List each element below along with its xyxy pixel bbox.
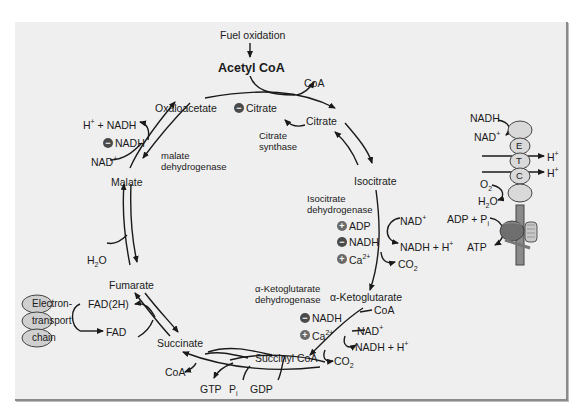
inhibit-icon: − — [300, 313, 310, 323]
etc-adp-pi: ADP + Pi — [447, 214, 489, 227]
malate-dehydrogenase-label: malate dehydrogenase — [161, 151, 227, 173]
malate-inhibitor-nadh: − NADH — [103, 138, 145, 149]
isocitrate-activator-ca: + Ca2+ — [337, 253, 370, 265]
isocitrate-label: Isocitrate — [354, 176, 397, 187]
activate-icon: + — [300, 330, 310, 340]
etc-letter-c: C — [516, 171, 523, 181]
gtp-label: GTP — [200, 384, 222, 395]
fad-label: FAD — [106, 327, 126, 338]
akg-coa: CoA — [374, 305, 394, 316]
inhibit-icon: − — [234, 103, 244, 113]
malate-label: Malate — [111, 177, 143, 188]
succinyl-coa-out: CoA — [165, 367, 185, 378]
fumarate-h2o: H2O — [87, 255, 107, 268]
etc-box-line1: Electron- — [32, 299, 72, 309]
etc-letter-t: T — [516, 156, 522, 166]
gdp-label: GDP — [250, 384, 273, 395]
activate-icon: + — [337, 221, 347, 231]
etc-nad: NAD+ — [474, 130, 500, 142]
fuel-oxidation-label: Fuel oxidation — [220, 30, 285, 41]
citrate-inhibitor: − Citrate — [234, 103, 277, 114]
akg-dehydrogenase-label: α-Ketoglutarate dehydrogenase — [255, 284, 321, 306]
akg-nad-in: NAD+ — [357, 324, 383, 336]
inhibit-icon: − — [337, 237, 347, 247]
etc-o2: O2 — [480, 179, 492, 192]
isocitrate-nadh-out: NADH + H+ — [400, 240, 453, 252]
etc-h-plus-2: H+ — [547, 166, 559, 178]
fumarate-label: Fumarate — [109, 280, 154, 291]
alpha-ketoglutarate-label: α-Ketoglutarate — [330, 292, 402, 303]
etc-letter-e: E — [516, 141, 522, 151]
etc-box-line3: chain — [32, 333, 56, 343]
akg-nadh-out: NADH + H+ — [355, 340, 408, 352]
succinate-label: Succinate — [157, 338, 203, 349]
isocitrate-dehydrogenase-label: Isocitrate dehydrogenase — [307, 194, 373, 216]
fad2h-label: FAD(2H) — [88, 299, 129, 310]
acetyl-coa-label: Acetyl CoA — [218, 62, 285, 75]
oxaloacetate-label: Oxaloacetate — [155, 103, 217, 114]
etc-box-line2: transport — [32, 316, 71, 326]
malate-nadh-out: H+ + NADH — [83, 118, 136, 130]
isocitrate-inhibitor-nadh: − NADH — [337, 237, 379, 248]
isocitrate-nad-in: NAD+ — [400, 214, 426, 226]
coa-out-label: CoA — [304, 78, 324, 89]
akg-activator-ca: + Ca2+ — [300, 329, 333, 341]
isocitrate-co2: CO2 — [398, 259, 418, 272]
akg-co2: CO2 — [334, 356, 354, 369]
pi-label: Pi — [229, 384, 238, 397]
etc-atp: ATP — [467, 242, 487, 253]
etc-h2o: H2O — [478, 196, 498, 209]
citrate-synthase-label: Citrate synthase — [259, 131, 297, 153]
etc-h-plus-1: H+ — [547, 150, 559, 162]
atp-synthase-icon — [500, 221, 537, 248]
activate-icon: + — [337, 254, 347, 264]
akg-inhibitor-nadh: − NADH — [300, 313, 342, 324]
succinyl-coa-label: Succinyl CoA — [255, 353, 317, 364]
etc-nadh: NADH — [470, 113, 500, 124]
malate-nad-in: NAD+ — [91, 155, 117, 167]
citrate-label: Citrate — [306, 116, 337, 127]
inhibit-icon: − — [103, 138, 113, 148]
isocitrate-activator-adp: + ADP — [337, 221, 371, 232]
